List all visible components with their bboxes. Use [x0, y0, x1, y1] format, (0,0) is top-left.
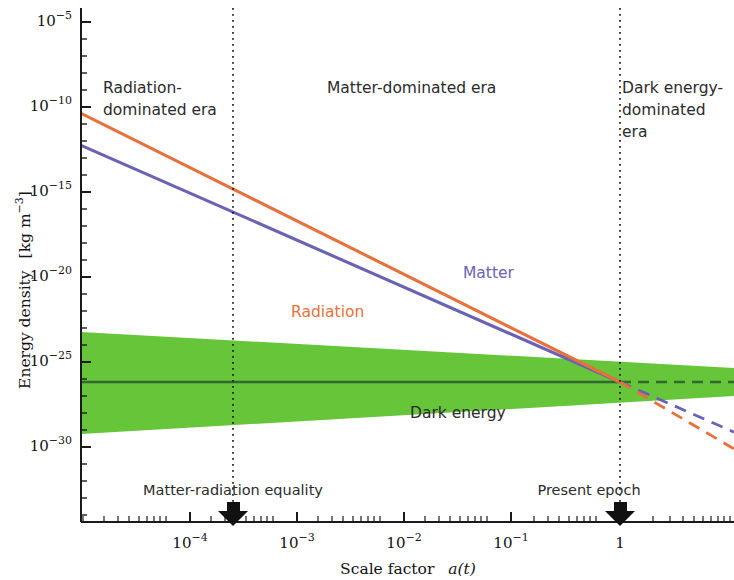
era-label-line: dominated era [103, 101, 217, 119]
era-label-line: Dark energy- [622, 79, 723, 97]
era-label-line: era [622, 123, 647, 141]
event-label-present-epoch: Present epoch [537, 482, 640, 498]
series-label-radiation: Radiation [291, 303, 364, 321]
chart-svg: 10−5 10−10 10−15 10−20 10−25 10−30 [0, 0, 734, 580]
y-axis-title: Energy density[kg m−3] [13, 191, 34, 389]
event-label-matter-radiation-equality: Matter-radiation equality [143, 482, 323, 498]
x-axis-title: Scale factora(t) [340, 560, 476, 578]
series-label-matter: Matter [463, 264, 515, 282]
series-label-dark-energy: Dark energy [410, 404, 506, 422]
energy-density-chart: 10−5 10−10 10−15 10−20 10−25 10−30 [0, 0, 734, 580]
x-tick-label: 1 [615, 534, 625, 552]
era-label-line: dominated [622, 101, 706, 119]
era-label-matter-dominated: Matter-dominated era [327, 79, 496, 97]
era-label-line: Radiation- [103, 79, 182, 97]
